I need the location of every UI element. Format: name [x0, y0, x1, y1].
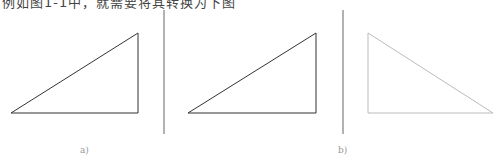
triangle-c — [368, 33, 493, 113]
panel-label-b: b) — [338, 145, 347, 155]
triangle-figure — [0, 0, 504, 165]
panel-label-a: a) — [80, 145, 89, 155]
triangle-b — [188, 33, 316, 113]
triangle-a — [11, 33, 138, 113]
